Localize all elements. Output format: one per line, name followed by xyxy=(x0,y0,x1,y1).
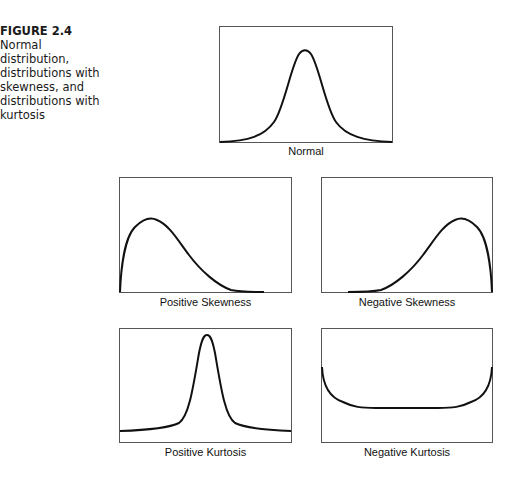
plot-frame xyxy=(120,178,292,293)
panel-label-negative-skewness: Negative Skewness xyxy=(321,296,493,308)
caption-line: kurtosis xyxy=(0,108,45,122)
positive-skewness-curve xyxy=(120,219,264,292)
panel-normal xyxy=(219,26,393,143)
figure-number: FIGURE 2.4 xyxy=(0,24,115,38)
caption-line: distributions with xyxy=(0,66,100,80)
panel-positive-skewness xyxy=(119,177,292,293)
panel-label-positive-kurtosis: Positive Kurtosis xyxy=(119,446,292,458)
caption-line: distribution, xyxy=(0,52,69,66)
negative-skewness-plot xyxy=(321,177,493,293)
negative-kurtosis-plot xyxy=(321,328,493,443)
negative-kurtosis-curve xyxy=(322,367,492,408)
panel-negative-kurtosis xyxy=(321,328,493,443)
normal-curve xyxy=(220,50,392,142)
plot-frame xyxy=(322,178,493,293)
panel-label-negative-kurtosis: Negative Kurtosis xyxy=(321,446,493,458)
caption-line: Normal xyxy=(0,38,42,52)
positive-kurtosis-curve xyxy=(120,335,291,431)
positive-kurtosis-plot xyxy=(119,328,292,443)
caption-line: skewness, and xyxy=(0,80,84,94)
panel-label-normal: Normal xyxy=(219,145,393,157)
plot-frame xyxy=(120,329,292,443)
normal-curve-plot xyxy=(219,26,393,143)
positive-skewness-plot xyxy=(119,177,292,293)
plot-frame xyxy=(220,27,393,143)
panel-negative-skewness xyxy=(321,177,493,293)
panel-label-positive-skewness: Positive Skewness xyxy=(119,296,292,308)
panel-positive-kurtosis xyxy=(119,328,292,443)
caption-line: distributions with xyxy=(0,94,100,108)
plot-frame xyxy=(322,329,493,443)
figure-caption: FIGURE 2.4 Normal distribution, distribu… xyxy=(0,24,115,122)
negative-skewness-curve xyxy=(348,219,492,292)
